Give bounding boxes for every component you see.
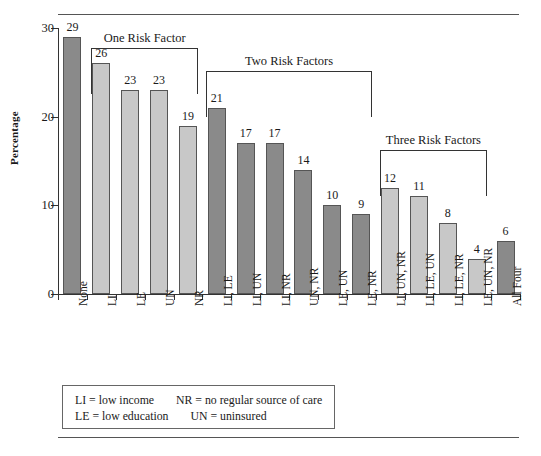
legend-key-nr: NR — [176, 393, 192, 407]
x-axis-tick-label: LE, UN, NR — [482, 248, 494, 306]
legend-sep-2: = — [195, 393, 202, 407]
group-bracket-label: Two Risk Factors — [206, 54, 371, 69]
x-axis-tick-label: UN, NR — [308, 268, 320, 306]
bar — [179, 126, 197, 294]
bar-value-label: 19 — [173, 109, 203, 124]
bar — [208, 108, 226, 294]
figure-container: Percentage 0102030 292623231921171714109… — [0, 0, 541, 456]
y-axis-title: Percentage — [8, 111, 20, 165]
legend-desc-un: uninsured — [220, 409, 267, 423]
legend-desc-le: low education — [102, 409, 169, 423]
x-axis-tick-label: UN — [164, 289, 176, 306]
x-axis-tick-label: All Four — [511, 267, 523, 306]
legend-box: LI = low income NR = no regular source o… — [62, 385, 335, 429]
legend-desc-li: low income — [99, 393, 154, 407]
legend-row-2: LE = low education UN = uninsured — [75, 408, 324, 424]
bar — [237, 143, 255, 294]
bar-value-label: 6 — [491, 224, 521, 239]
bar — [63, 37, 81, 294]
bar-value-label: 8 — [433, 206, 463, 221]
y-tick-label: 0 — [48, 287, 54, 302]
group-bracket-label: Three Risk Factors — [380, 133, 488, 148]
x-axis-tick-label: LI, UN — [251, 273, 263, 306]
legend-row-1: LI = low income NR = no regular source o… — [75, 392, 324, 408]
y-tick-label: 10 — [42, 198, 55, 213]
group-bracket — [380, 150, 488, 196]
x-axis-tick-label: NR — [193, 290, 205, 306]
bar — [266, 143, 284, 294]
bar — [150, 90, 168, 294]
x-axis-tick-label: LE, UN — [337, 270, 349, 306]
x-axis-tick-label: LI, LE, UN — [424, 253, 436, 306]
x-axis-tick-label: LI, LE, NR — [453, 254, 465, 306]
legend-desc-nr: no regular source of care — [205, 393, 322, 407]
bottom-divider-rule — [58, 437, 519, 438]
legend-sep-1: = — [89, 393, 96, 407]
y-tick-label: 30 — [42, 21, 55, 36]
bar — [92, 63, 110, 294]
bar-value-label: 9 — [346, 197, 376, 212]
x-axis-tick-label: None — [77, 281, 89, 306]
bar-value-label: 10 — [317, 188, 347, 203]
bar — [121, 90, 139, 294]
x-tick-mark — [58, 294, 59, 300]
x-axis-tick-label: LI — [106, 295, 118, 306]
y-axis-line — [58, 28, 59, 294]
x-axis-tick-label: LI, UN, NR — [395, 251, 407, 306]
group-bracket — [206, 71, 371, 117]
group-bracket — [91, 48, 199, 94]
group-bracket-label: One Risk Factor — [91, 31, 199, 46]
legend-key-un: UN — [190, 409, 207, 423]
plot-area: 0102030 2926232319211717141091211846 Non… — [58, 28, 520, 294]
bar-value-label: 17 — [231, 126, 261, 141]
y-tick-label: 20 — [42, 109, 55, 124]
x-axis-tick-label: LI, NR — [280, 273, 292, 306]
x-axis-tick-label: LE — [135, 292, 147, 306]
x-axis-tick-label: LI, LE — [222, 275, 234, 306]
legend-sep-4: = — [210, 409, 217, 423]
top-divider-rule — [58, 14, 519, 15]
bar-value-label: 14 — [288, 153, 318, 168]
bar-value-label: 17 — [260, 126, 290, 141]
bar-value-label: 29 — [57, 20, 87, 35]
legend-key-li: LI — [75, 393, 86, 407]
legend-key-le: LE — [75, 409, 89, 423]
x-axis-tick-label: LE, NR — [366, 270, 378, 306]
legend-sep-3: = — [92, 409, 99, 423]
